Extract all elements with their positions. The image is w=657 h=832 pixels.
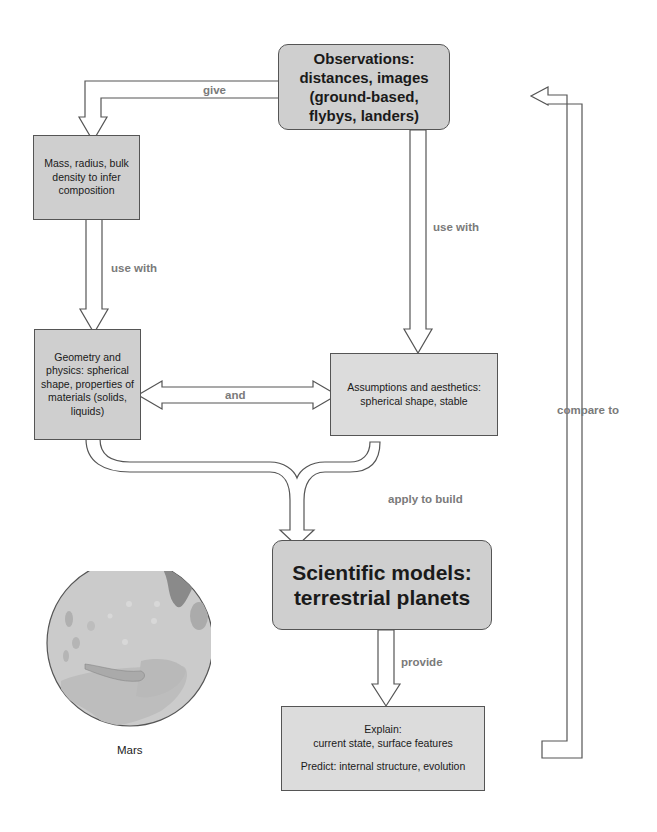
mars-caption: Mars bbox=[117, 744, 143, 756]
geometry-physics-box: Geometry and physics: spherical shape, p… bbox=[34, 329, 141, 440]
use-with-left-arrow bbox=[80, 217, 108, 333]
provide-arrow bbox=[372, 630, 400, 706]
assumptions-box: Assumptions and aesthetics: spherical sh… bbox=[330, 353, 498, 436]
mars-illustration bbox=[41, 571, 211, 741]
scientific-models-text: Scientific models: terrestrial planets bbox=[273, 560, 491, 610]
scientific-models-box: Scientific models: terrestrial planets bbox=[272, 540, 492, 630]
provide-label: provide bbox=[401, 656, 443, 668]
apply-to-build-label: apply to build bbox=[388, 493, 463, 505]
use-with-left-label: use with bbox=[111, 262, 157, 274]
compare-to-label: compare to bbox=[557, 404, 619, 416]
geometry-physics-text: Geometry and physics: spherical shape, p… bbox=[35, 351, 140, 418]
give-label: give bbox=[203, 84, 226, 96]
observations-text: Observations: distances, images (ground-… bbox=[279, 49, 449, 126]
diagram-canvas: Observations: distances, images (ground-… bbox=[0, 0, 657, 832]
use-with-right-label: use with bbox=[433, 221, 479, 233]
observations-box: Observations: distances, images (ground-… bbox=[278, 44, 450, 130]
compare-to-arrow bbox=[531, 87, 582, 758]
assumptions-text: Assumptions and aesthetics: spherical sh… bbox=[331, 381, 497, 408]
use-with-right-arrow bbox=[404, 130, 432, 353]
apply-to-build-arrow bbox=[86, 439, 380, 546]
explain-text: current state, surface features bbox=[313, 737, 452, 750]
explain-label: Explain: bbox=[364, 723, 401, 736]
mass-radius-density-box: Mass, radius, bulk density to infer comp… bbox=[33, 135, 140, 220]
mass-radius-density-text: Mass, radius, bulk density to infer comp… bbox=[34, 157, 139, 197]
and-label: and bbox=[225, 389, 245, 401]
give-arrow bbox=[79, 81, 280, 141]
predict-text: Predict: internal structure, evolution bbox=[301, 760, 466, 773]
explain-predict-box: Explain: current state, surface features… bbox=[281, 706, 485, 791]
